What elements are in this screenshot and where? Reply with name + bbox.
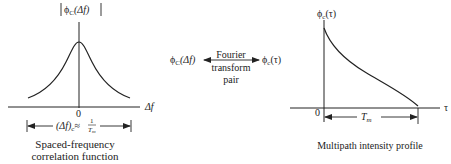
fourier-label-line-3: pair [223,74,239,85]
caption-line-1: Spaced-frequency [35,138,115,150]
caption-line-2: correlation function [31,150,119,162]
coherence-bandwidth-label: (Δf)c≈ [56,120,80,133]
y-axis-label: ϕC(Δf) [64,4,90,17]
spaced-frequency-plot: ϕC(Δf) Δf 0 (Δf)c≈ 1 Tm Spaced-frequency… [8,3,155,162]
right-function-label: ϕc(τ) [262,54,281,67]
origin-label: 0 [315,107,320,118]
fraction-numerator: 1 [90,117,94,125]
x-axis-label: τ [444,102,448,113]
fourier-diagram: ϕC(Δf) Δf 0 (Δf)c≈ 1 Tm Spaced-frequency… [0,0,451,164]
y-axis-label: ϕc(τ) [317,8,336,21]
x-axis-label: Δf [144,101,155,112]
delay-spread-label: Tm [361,111,372,124]
origin-label: 0 [76,108,81,119]
left-function-label: ϕC(Δf) [170,54,196,67]
fraction-denominator: Tm [88,126,96,134]
intensity-decay-curve [324,28,418,106]
fourier-transform-pair: ϕC(Δf) ϕc(τ) Fourier transform pair [170,49,281,85]
multipath-intensity-plot: ϕc(τ) τ 0 Tm Multipath intensity profile [290,8,448,151]
caption: Multipath intensity profile [317,140,423,151]
fourier-label-line-1: Fourier [216,49,246,60]
fourier-label-line-2: transform [212,62,251,73]
